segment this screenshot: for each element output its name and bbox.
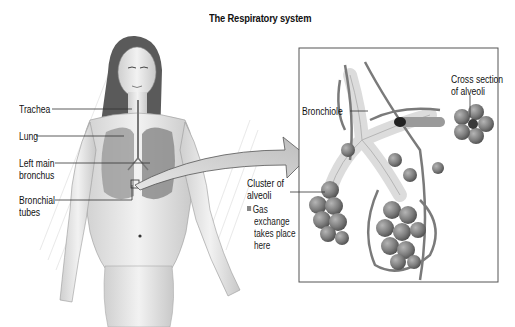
label-left-main-bronchus-line1: Left main	[19, 157, 54, 169]
square-bullet-icon	[247, 206, 251, 211]
label-cross-section-line2: of alveoli	[451, 85, 485, 97]
note-gas-exchange-line2: exchange	[254, 216, 290, 228]
note-gas-exchange-line1: Gas	[247, 204, 268, 216]
diagram-title: The Respiratory system	[209, 12, 311, 24]
label-left-main-bronchus-line2: bronchus	[19, 169, 54, 181]
label-lung: Lung	[19, 130, 38, 142]
note-gas-exchange-line4: here	[254, 240, 270, 252]
label-cluster-of-alveoli-line2: alveoli	[247, 189, 271, 201]
diagram-artwork	[0, 0, 515, 327]
label-bronchial-tubes-line2: tubes	[19, 206, 40, 218]
label-bronchial-tubes-line1: Bronchial	[19, 194, 55, 206]
label-cluster-of-alveoli-line1: Cluster of	[247, 177, 284, 189]
note-gas-exchange-line3: takes place	[254, 228, 295, 240]
label-bronchiole: Bronchiole	[302, 105, 343, 117]
label-cross-section-line1: Cross section	[451, 73, 503, 85]
label-trachea: Trachea	[19, 103, 50, 115]
